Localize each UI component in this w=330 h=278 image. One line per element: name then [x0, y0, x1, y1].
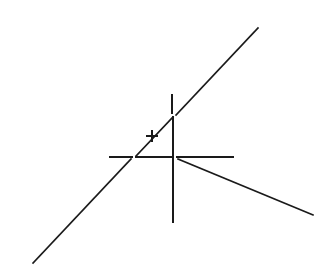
drawing-canvas[interactable]	[0, 0, 330, 278]
canvas-background	[0, 0, 330, 278]
